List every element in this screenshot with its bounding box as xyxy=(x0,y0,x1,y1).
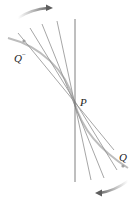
secant-line-3 xyxy=(42,24,104,178)
secant-lines xyxy=(18,21,117,180)
q-minus-letter: Q xyxy=(14,52,22,64)
q-minus-label: Q− xyxy=(14,52,26,64)
function-curve xyxy=(8,38,128,168)
top-rotation-arrow-icon xyxy=(18,5,53,19)
p-label: P xyxy=(80,97,87,108)
secant-line-1 xyxy=(18,33,114,150)
bottom-rotation-arrow-icon xyxy=(95,181,128,197)
q-label: Q xyxy=(119,152,127,163)
q-minus-superscript: − xyxy=(22,51,26,59)
q-point xyxy=(121,164,124,167)
secant-tangent-diagram xyxy=(0,0,131,199)
q-minus-point xyxy=(22,39,25,42)
